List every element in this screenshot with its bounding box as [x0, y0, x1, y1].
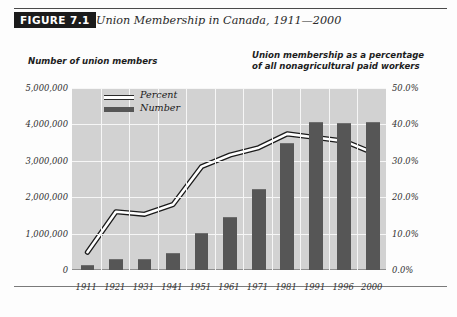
left-tick-1000000: 1,000,000: [12, 229, 68, 239]
right-axis-caption: Union membership as a percentage of all …: [252, 50, 424, 72]
x-tick-1931: 1931: [129, 282, 158, 292]
gridline-vertical: [272, 88, 273, 270]
bar-1941: [166, 253, 180, 270]
gridline-vertical: [300, 88, 301, 270]
left-tick-5000000: 5,000,000: [12, 83, 68, 93]
figure-number-badge: FIGURE 7.1: [14, 12, 96, 28]
x-tick-1911: 1911: [72, 282, 101, 292]
bar-1961: [223, 217, 237, 270]
figure-header: FIGURE 7.1 Union Membership in Canada, 1…: [14, 8, 447, 28]
gridline-vertical: [186, 88, 187, 270]
x-tick-1991: 1991: [300, 282, 329, 292]
legend-label-percent: Percent: [140, 89, 177, 100]
bar-1996: [337, 123, 351, 270]
left-tick-0: 0: [12, 265, 68, 275]
left-tick-3000000: 3,000,000: [12, 156, 68, 166]
right-tick-50: 50.0%: [392, 83, 419, 93]
x-tick-2000: 2000: [357, 282, 386, 292]
bar-1991: [309, 122, 323, 270]
gridline-vertical: [101, 88, 102, 270]
left-tick-2000000: 2,000,000: [12, 192, 68, 202]
figure-page: FIGURE 7.1 Union Membership in Canada, 1…: [0, 0, 457, 317]
gridline-vertical: [215, 88, 216, 270]
bar-1981: [280, 143, 294, 270]
bar-1921: [109, 259, 123, 270]
right-tick-10: 10.0%: [392, 229, 419, 239]
x-tick-1971: 1971: [243, 282, 272, 292]
x-tick-1951: 1951: [186, 282, 215, 292]
x-tick-1921: 1921: [101, 282, 130, 292]
gridline-vertical: [158, 88, 159, 270]
header-divider: [14, 8, 447, 9]
right-axis-caption-line2: of all nonagricultural paid workers: [252, 61, 424, 72]
bar-1971: [252, 189, 266, 270]
right-tick-0: 0.0%: [392, 265, 413, 275]
left-tick-4000000: 4,000,000: [12, 119, 68, 129]
legend-bar-swatch-icon: [104, 107, 134, 112]
x-tick-1941: 1941: [158, 282, 187, 292]
gridline-vertical: [243, 88, 244, 270]
bar-1911: [81, 265, 95, 270]
legend-label-number: Number: [140, 102, 180, 113]
x-tick-1981: 1981: [272, 282, 301, 292]
right-tick-20: 20.0%: [392, 192, 419, 202]
x-tick-1996: 1996: [329, 282, 358, 292]
gridline-vertical: [357, 88, 358, 270]
gridline-horizontal: [72, 88, 386, 89]
gridline-vertical: [129, 88, 130, 270]
bar-2000: [366, 122, 380, 270]
figure-title: Union Membership in Canada, 1911—2000: [96, 13, 341, 28]
right-tick-40: 40.0%: [392, 119, 419, 129]
left-axis-caption: Number of union members: [28, 56, 157, 67]
chart-plot-area: [72, 88, 386, 270]
bar-1951: [195, 233, 209, 270]
bar-1931: [138, 259, 152, 270]
x-tick-1961: 1961: [215, 282, 244, 292]
gridline-vertical: [329, 88, 330, 270]
legend-line-swatch-icon: [104, 95, 134, 100]
right-tick-30: 30.0%: [392, 156, 419, 166]
right-axis-caption-line1: Union membership as a percentage: [252, 50, 424, 61]
